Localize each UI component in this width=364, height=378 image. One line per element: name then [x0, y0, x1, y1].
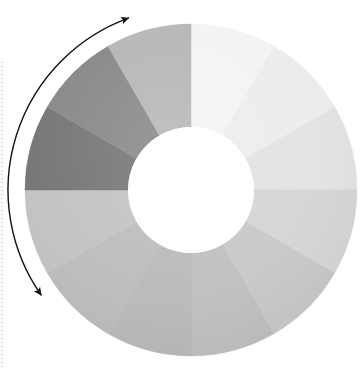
wheel-center-hole [128, 127, 254, 253]
colour-wheel-svg [0, 0, 364, 378]
figure-root: Grayscale colour wheel with rotation arr… [0, 0, 364, 378]
